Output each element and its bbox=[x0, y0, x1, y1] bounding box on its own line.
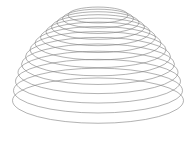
cross-section-ring bbox=[22, 44, 175, 85]
cross-section-ring bbox=[26, 37, 171, 75]
cross-section-ring bbox=[30, 32, 166, 68]
cross-section-ring bbox=[18, 51, 178, 93]
cross-section-ring bbox=[57, 12, 139, 34]
cross-section-ring bbox=[14, 68, 183, 113]
figure-canvas: Wireframe dome surface of revolution A b… bbox=[0, 0, 196, 144]
wireframe-dome-plot: Wireframe dome surface of revolution A b… bbox=[0, 0, 196, 144]
cross-section-rings-group bbox=[13, 7, 184, 123]
cross-section-ring bbox=[16, 59, 181, 103]
